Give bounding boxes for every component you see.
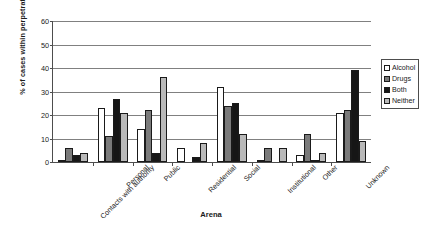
bar-personal-both bbox=[113, 99, 121, 162]
bar-group-residential bbox=[172, 21, 212, 162]
legend-swatch-drugs bbox=[384, 76, 390, 82]
bar-contacts-with-authority-both bbox=[73, 155, 81, 162]
y-axis-tick-label: 40 bbox=[7, 64, 53, 73]
bar-chart: % of cases within perpetrator consumptio… bbox=[0, 0, 440, 241]
bar-group-institutional bbox=[252, 21, 292, 162]
bar-institutional-drugs bbox=[264, 148, 272, 162]
bar-contacts-with-authority-drugs bbox=[65, 148, 73, 162]
bar-institutional-neither bbox=[279, 148, 287, 162]
bar-social-alcohol bbox=[217, 87, 225, 162]
bar-unknown-both bbox=[351, 70, 359, 162]
bar-social-drugs bbox=[224, 106, 232, 162]
bar-group-contacts-with-authority bbox=[53, 21, 93, 162]
bar-institutional-alcohol bbox=[257, 160, 265, 162]
legend-item-both[interactable]: Both bbox=[384, 84, 415, 95]
x-axis-title: Arena bbox=[52, 210, 370, 219]
legend: AlcoholDrugsBothNeither bbox=[381, 59, 419, 109]
y-axis-tick-label: 30 bbox=[7, 87, 53, 96]
legend-label-both: Both bbox=[392, 86, 407, 94]
bar-group-other bbox=[292, 21, 332, 162]
bar-social-both bbox=[232, 103, 240, 162]
legend-swatch-both bbox=[384, 87, 390, 93]
plot-area: 0102030405060 bbox=[52, 21, 371, 163]
x-axis-tick-labels: Contacts with authorityPersonalPublicRes… bbox=[52, 163, 370, 211]
bar-personal-drugs bbox=[105, 136, 113, 162]
y-axis-tick-label: 60 bbox=[7, 17, 53, 26]
bar-residential-neither bbox=[200, 143, 208, 162]
x-axis-tick-label-institutional: Institutional bbox=[286, 163, 318, 195]
legend-item-neither[interactable]: Neither bbox=[384, 95, 415, 106]
bar-groups bbox=[53, 21, 371, 162]
legend-label-alcohol: Alcohol bbox=[392, 64, 415, 72]
bar-social-neither bbox=[239, 134, 247, 162]
bar-public-both bbox=[152, 153, 160, 162]
bar-group-public bbox=[133, 21, 173, 162]
bar-public-drugs bbox=[145, 110, 153, 162]
bar-other-neither bbox=[319, 153, 327, 162]
bar-residential-alcohol bbox=[177, 148, 185, 162]
bar-personal-neither bbox=[120, 113, 128, 162]
bar-other-alcohol bbox=[296, 155, 304, 162]
legend-swatch-alcohol bbox=[384, 65, 390, 71]
y-axis-tick-label: 0 bbox=[7, 158, 53, 167]
y-axis-tick-label: 10 bbox=[7, 134, 53, 143]
bar-unknown-neither bbox=[359, 141, 367, 162]
x-axis-tick-label-unknown: Unknown bbox=[364, 163, 392, 191]
bar-other-drugs bbox=[304, 134, 312, 162]
legend-label-neither: Neither bbox=[392, 97, 415, 105]
legend-item-drugs[interactable]: Drugs bbox=[384, 73, 415, 84]
bar-unknown-drugs bbox=[344, 110, 352, 162]
bar-other-both bbox=[311, 160, 319, 162]
bar-group-personal bbox=[93, 21, 133, 162]
bar-unknown-alcohol bbox=[336, 113, 344, 162]
x-axis-tick-label-social: Social bbox=[241, 163, 261, 183]
bar-public-neither bbox=[160, 77, 168, 162]
x-axis-tick-label-public: Public bbox=[162, 163, 182, 183]
bar-group-unknown bbox=[331, 21, 371, 162]
bar-public-alcohol bbox=[137, 129, 145, 162]
bar-personal-alcohol bbox=[98, 108, 106, 162]
legend-swatch-neither bbox=[384, 98, 390, 104]
y-axis-tick-label: 20 bbox=[7, 111, 53, 120]
legend-item-alcohol[interactable]: Alcohol bbox=[384, 62, 415, 73]
legend-label-drugs: Drugs bbox=[392, 75, 411, 83]
x-axis-tick-label-other: Other bbox=[320, 163, 339, 182]
bar-contacts-with-authority-alcohol bbox=[58, 160, 66, 162]
bar-contacts-with-authority-neither bbox=[80, 153, 88, 162]
x-axis-tick-label-residential: Residential bbox=[206, 163, 238, 195]
bar-group-social bbox=[212, 21, 252, 162]
bar-residential-both bbox=[192, 157, 200, 162]
y-axis-tick-label: 50 bbox=[7, 40, 53, 49]
